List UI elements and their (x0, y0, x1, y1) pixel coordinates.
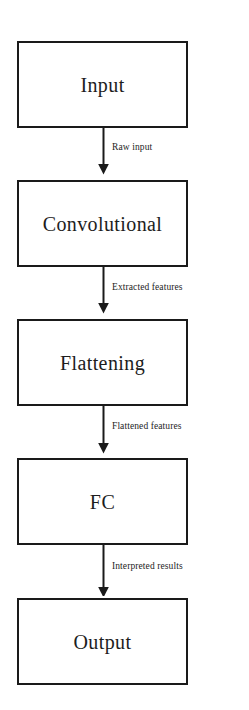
node-input-label: Input (80, 75, 124, 95)
edge-label-raw-input: Raw input (112, 143, 152, 153)
edge-label-flattened-features: Flattened features (112, 422, 182, 432)
node-convolutional-label: Convolutional (43, 214, 163, 234)
node-fc[interactable]: FC (17, 458, 188, 545)
node-output[interactable]: Output (17, 598, 188, 685)
node-input[interactable]: Input (17, 41, 188, 128)
node-flattening[interactable]: Flattening (17, 319, 188, 406)
node-flattening-label: Flattening (60, 353, 145, 373)
node-fc-label: FC (90, 492, 115, 512)
edge-label-extracted-features: Extracted features (112, 283, 183, 293)
edge-label-interpreted-results: Interpreted results (112, 562, 183, 572)
node-convolutional[interactable]: Convolutional (17, 180, 188, 267)
node-output-label: Output (74, 632, 132, 652)
cnn-flowchart: Input Raw input Convolutional Extracted … (0, 0, 249, 710)
